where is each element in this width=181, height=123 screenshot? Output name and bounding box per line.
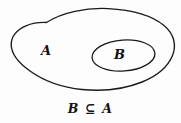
- set-a-label: A: [41, 44, 51, 57]
- diagram-caption: B ⊆ A: [0, 101, 181, 116]
- set-a-outline: [11, 8, 174, 90]
- set-b-label: B: [114, 48, 125, 61]
- euler-diagram-canvas: A B B ⊆ A: [0, 0, 181, 123]
